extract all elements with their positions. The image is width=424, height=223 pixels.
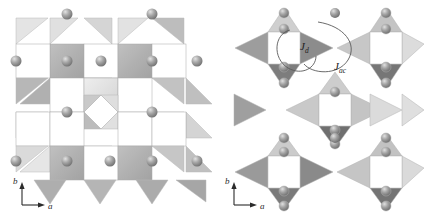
right-panel-svg: Jd Jac b a <box>212 0 424 223</box>
tetrahedra-row-5 <box>34 180 206 204</box>
star-unit-top-right <box>337 8 424 88</box>
axis-label-a: a <box>260 201 265 211</box>
left-panel-svg: b a <box>0 0 212 223</box>
center-rotated-square <box>84 95 118 129</box>
dimer-lattice-panel: Jd Jac b a <box>212 0 424 223</box>
axis-label-b: b <box>225 176 230 186</box>
axis-indicator-right <box>231 182 257 208</box>
star-unit-top-left <box>235 8 333 88</box>
star-unit-bottom-left <box>235 133 333 211</box>
figure-container: b a <box>0 0 424 223</box>
axis-label-a: a <box>48 201 53 211</box>
star-unit-bottom-right <box>337 133 424 211</box>
left-lattice-group <box>11 9 213 205</box>
tetrahedra-row-1 <box>16 18 184 44</box>
checkerboard-lattice-panel: b a <box>0 0 212 223</box>
interstitial-sphere-bottom <box>330 133 340 143</box>
coupling-label-jac: Jac <box>334 60 347 75</box>
axis-label-b: b <box>13 176 18 186</box>
interstitial-sphere-top <box>330 8 340 18</box>
